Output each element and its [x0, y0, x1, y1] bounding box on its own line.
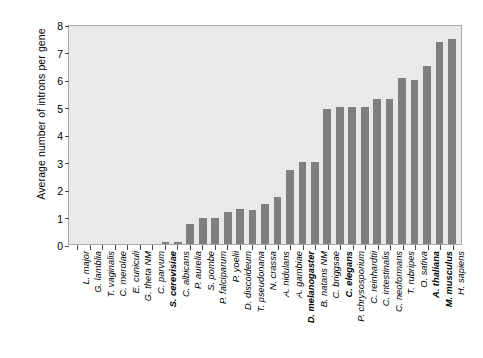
- x-axis-tick: [146, 245, 159, 250]
- x-axis-label-slot: C. merolae: [109, 251, 122, 357]
- bar: [236, 209, 244, 244]
- bar: [436, 42, 444, 244]
- bar-slot: [446, 26, 458, 244]
- x-axis-tick-mark: [278, 245, 279, 250]
- x-axis-tick: [309, 245, 322, 250]
- bar-slot: [358, 26, 370, 244]
- x-axis-tick: [209, 245, 222, 250]
- bar: [274, 197, 282, 244]
- bar-slot: [371, 26, 383, 244]
- x-axis-label-slot: P. chrysosporium: [346, 251, 359, 357]
- x-axis-tick-mark: [403, 245, 404, 250]
- x-axis-ticks: [68, 245, 462, 250]
- x-axis-tick: [396, 245, 409, 250]
- x-axis-label-slot: C. reinhardtii: [359, 251, 372, 357]
- bar-slot: [159, 26, 171, 244]
- bar: [224, 212, 232, 244]
- x-axis-tick-mark: [77, 245, 78, 250]
- bar-slot: [72, 26, 84, 244]
- bar-slot: [421, 26, 433, 244]
- x-axis-tick: [384, 245, 397, 250]
- x-axis-tick: [446, 245, 459, 250]
- x-axis-tick-mark: [215, 245, 216, 250]
- x-axis-tick-mark: [177, 245, 178, 250]
- x-axis-tick-mark: [315, 245, 316, 250]
- x-axis-tick-mark: [390, 245, 391, 250]
- x-axis-tick-mark: [115, 245, 116, 250]
- x-axis-label-slot: D. melanogaster: [296, 251, 309, 357]
- bar: [186, 224, 194, 244]
- bar: [299, 162, 307, 244]
- x-axis-tick: [84, 245, 97, 250]
- bar: [261, 204, 269, 244]
- x-axis-label-slot: B. natans NM: [309, 251, 322, 357]
- x-axis-tick-mark: [140, 245, 141, 250]
- bar-slot: [209, 26, 221, 244]
- x-axis-label-slot: C. intestinalis: [371, 251, 384, 357]
- x-axis-tick-mark: [240, 245, 241, 250]
- bar-slot: [234, 26, 246, 244]
- x-axis-label-slot: P. aurelia: [184, 251, 197, 357]
- bar: [174, 242, 182, 244]
- x-axis-tick: [421, 245, 434, 250]
- x-axis-label-slot: G. theta NM: [134, 251, 147, 357]
- x-axis-tick: [71, 245, 84, 250]
- bar-slot: [321, 26, 333, 244]
- bar-slot: [147, 26, 159, 244]
- x-axis-tick: [234, 245, 247, 250]
- x-axis-tick: [259, 245, 272, 250]
- bar-slot: [184, 26, 196, 244]
- bar: [373, 99, 381, 244]
- x-axis-tick-mark: [190, 245, 191, 250]
- x-axis-tick: [121, 245, 134, 250]
- bar-slot: [396, 26, 408, 244]
- bar-slot: [296, 26, 308, 244]
- bar: [311, 162, 319, 244]
- x-axis-labels: L. majorG. lambliaT. vaginalisC. merolae…: [68, 251, 462, 357]
- x-axis-tick: [409, 245, 422, 250]
- bar: [323, 109, 331, 244]
- x-axis-label-slot: P. yoelii: [221, 251, 234, 357]
- x-axis-tick-mark: [340, 245, 341, 250]
- x-axis-tick: [271, 245, 284, 250]
- bar-slot: [383, 26, 395, 244]
- x-axis-tick-mark: [365, 245, 366, 250]
- bar: [348, 107, 356, 244]
- x-axis-label-slot: C. elegans: [334, 251, 347, 357]
- x-axis-tick: [159, 245, 172, 250]
- x-axis-tick-mark: [90, 245, 91, 250]
- x-axis-tick-mark: [202, 245, 203, 250]
- x-axis-tick: [196, 245, 209, 250]
- bar-slot: [259, 26, 271, 244]
- x-axis-tick: [359, 245, 372, 250]
- bar-slot: [346, 26, 358, 244]
- x-axis-tick-mark: [252, 245, 253, 250]
- x-axis-tick-mark: [440, 245, 441, 250]
- bar-slot: [433, 26, 445, 244]
- x-axis-label-slot: T. pseudonana: [246, 251, 259, 357]
- bar-slot: [271, 26, 283, 244]
- bar: [211, 218, 219, 244]
- bar-slot: [284, 26, 296, 244]
- x-axis-label-slot: C. albicans: [171, 251, 184, 357]
- x-axis-label-slot: L. major: [71, 251, 84, 357]
- x-axis-label-slot: G. lamblia: [84, 251, 97, 357]
- bar-slot: [334, 26, 346, 244]
- x-axis-tick: [109, 245, 122, 250]
- x-axis-label-slot: S. pombe: [196, 251, 209, 357]
- x-axis-tick-mark: [328, 245, 329, 250]
- bar: [286, 170, 294, 244]
- bar-slot: [246, 26, 258, 244]
- x-axis-tick-mark: [127, 245, 128, 250]
- x-axis-label-slot: P. falciparum: [209, 251, 222, 357]
- bar: [199, 218, 207, 244]
- x-axis-tick-mark: [102, 245, 103, 250]
- bar: [423, 66, 431, 244]
- y-axis-title: Average number of introns per gene: [35, 0, 47, 239]
- bar: [361, 107, 369, 245]
- x-axis-label: H. sapiens: [456, 251, 466, 295]
- x-axis-tick-mark: [415, 245, 416, 250]
- bar: [398, 78, 406, 244]
- x-axis-tick-mark: [227, 245, 228, 250]
- bar: [336, 107, 344, 245]
